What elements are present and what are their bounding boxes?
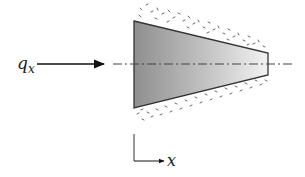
tapered-fin-diagram: qx x <box>0 0 305 177</box>
x-axis-indicator <box>134 134 164 161</box>
x-axis-label: x <box>167 151 176 170</box>
heat-flux-label: qx <box>17 53 35 76</box>
